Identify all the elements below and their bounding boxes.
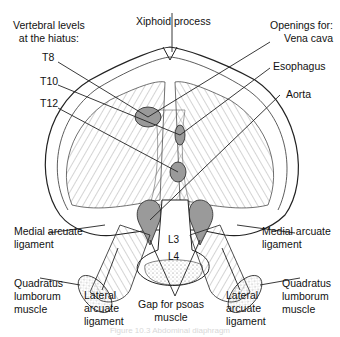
figure-caption: Figure 10.3 Abdominal diaphragm [0, 326, 340, 335]
label-t10: T10 [40, 75, 58, 88]
label-quadratus-left: Quadratus lumborum muscle [14, 277, 63, 316]
label-esophagus: Esophagus [273, 60, 326, 73]
vertebral-levels-header: Vertebral levels at the hiatus: [13, 19, 85, 45]
label-l4: L4 [168, 250, 179, 263]
label-quadratus-right: Quadratus lumborum muscle [282, 277, 331, 316]
diaphragm-diagram: Vertebral levels at the hiatus: T8 T10 T… [0, 0, 340, 337]
label-lateral-arcuate-left: Lateral arcuate ligament [84, 289, 124, 328]
label-xiphoid: Xiphoid process [136, 15, 211, 28]
label-aorta: Aorta [286, 88, 311, 101]
label-medial-arcuate-right: Medial arcuate ligament [262, 225, 331, 251]
label-medial-arcuate-left: Medial arcuate ligament [14, 225, 83, 251]
label-t12: T12 [40, 97, 58, 110]
label-t8: T8 [42, 51, 54, 64]
label-psoas-gap: Gap for psoas muscle [138, 298, 204, 324]
label-l3: L3 [168, 233, 179, 246]
label-lateral-arcuate-right: Lateral arcuate ligament [226, 289, 266, 328]
openings-header: Openings for: Vena cava [270, 19, 333, 45]
